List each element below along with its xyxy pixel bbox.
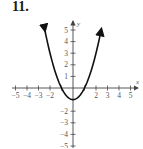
parabola-graph: −5−4−3−22345x 54321−2−3−4−5y: [0, 0, 143, 148]
x-tick-label: 2: [94, 91, 98, 100]
x-tick-label: 3: [106, 91, 110, 100]
y-tick-label: 1: [64, 72, 68, 81]
y-axis: 54321−2−3−4−5y: [60, 20, 81, 148]
x-tick-label: −2: [46, 91, 54, 100]
y-tick-label: −5: [60, 142, 68, 149]
x-tick-label: −5: [12, 91, 20, 100]
y-tick-label: 4: [64, 37, 68, 46]
y-axis-label: y: [76, 20, 81, 28]
y-tick-label: −3: [60, 118, 68, 127]
x-axis-label: x: [135, 78, 140, 86]
x-tick-label: −4: [23, 91, 31, 100]
y-tick-label: 3: [64, 49, 68, 58]
x-axis: −5−4−3−22345x: [12, 78, 140, 100]
x-tick-label: 4: [117, 91, 121, 100]
x-tick-label: −3: [35, 91, 43, 100]
y-tick-label: −2: [60, 107, 68, 116]
y-tick-label: 2: [64, 60, 68, 69]
y-tick-label: −4: [60, 130, 68, 139]
x-tick-label: 5: [129, 91, 133, 100]
y-tick-label: 5: [64, 26, 68, 35]
